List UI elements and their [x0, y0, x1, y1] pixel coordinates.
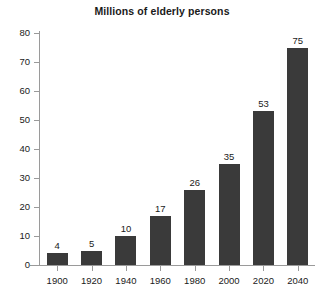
y-axis-tick [34, 178, 39, 179]
bar-value-label: 53 [248, 99, 278, 109]
y-axis-tick [34, 207, 39, 208]
bar [184, 190, 205, 265]
bar [219, 164, 240, 266]
x-axis-tick [160, 266, 161, 271]
bar-value-label: 75 [283, 36, 313, 46]
x-axis-tick [92, 266, 93, 271]
bar-value-label: 5 [77, 239, 107, 249]
y-axis-tick [34, 120, 39, 121]
plot-area [40, 33, 315, 265]
y-axis-tick [34, 62, 39, 63]
y-axis-tick-label: 50 [4, 115, 30, 125]
x-axis-tick [298, 266, 299, 271]
bar-value-label: 35 [214, 152, 244, 162]
bar-value-label: 10 [111, 224, 141, 234]
bar-value-label: 17 [145, 204, 175, 214]
bar [150, 216, 171, 265]
bar [81, 251, 102, 266]
bar [287, 48, 308, 266]
y-axis-tick-label: 30 [4, 173, 30, 183]
y-axis-tick-label: 80 [4, 28, 30, 38]
y-axis-tick [34, 33, 39, 34]
x-axis-tick [195, 266, 196, 271]
y-axis-tick [34, 236, 39, 237]
y-axis-tick-label: 70 [4, 57, 30, 67]
bar [253, 111, 274, 265]
y-axis-tick [34, 265, 39, 266]
y-axis-tick-label: 20 [4, 202, 30, 212]
y-axis-tick-label: 60 [4, 86, 30, 96]
bar-value-label: 4 [42, 241, 72, 251]
y-axis-tick [34, 149, 39, 150]
bar-chart: Millions of elderly persons 010203040506… [0, 0, 324, 300]
x-axis-tick [263, 266, 264, 271]
x-axis-tick [57, 266, 58, 271]
bar [115, 236, 136, 265]
chart-title: Millions of elderly persons [0, 5, 324, 17]
y-axis-tick-label: 10 [4, 231, 30, 241]
x-axis-line [30, 265, 315, 266]
x-axis-tick-label: 2040 [276, 276, 320, 286]
bar-value-label: 26 [180, 178, 210, 188]
y-axis-tick-label: 40 [4, 144, 30, 154]
y-axis-tick [34, 91, 39, 92]
x-axis-tick [126, 266, 127, 271]
x-axis-tick [229, 266, 230, 271]
bar [47, 253, 68, 265]
y-axis-tick-label: 0 [4, 260, 30, 270]
